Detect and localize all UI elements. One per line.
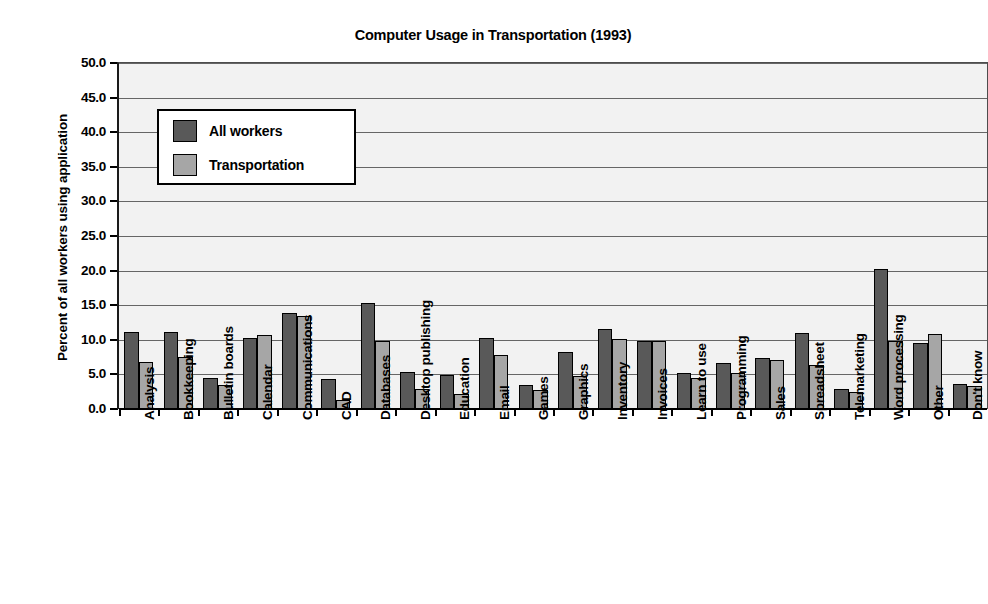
y-axis-tick-label: 35.0 <box>48 158 106 173</box>
bar-all-workers <box>400 372 415 409</box>
bar-all-workers <box>203 378 218 409</box>
bar-all-workers <box>124 332 139 409</box>
y-axis-tick-label: 45.0 <box>48 89 106 104</box>
legend-swatch-all-workers <box>173 120 197 142</box>
bar-all-workers <box>795 333 810 409</box>
bar-all-workers <box>519 385 534 409</box>
bar-group <box>592 63 631 409</box>
bar-group <box>750 63 789 409</box>
x-axis-category-label: Email <box>497 385 512 420</box>
x-axis-category-label: Desktop publishing <box>418 300 433 420</box>
x-axis-category-label: Calendar <box>260 365 275 420</box>
legend-swatch-transportation <box>173 154 197 176</box>
chart-title: Computer Usage in Transportation (1993) <box>0 27 986 43</box>
x-axis-category-label: Education <box>457 357 472 420</box>
bar-group <box>119 63 158 409</box>
y-axis-tick-label: 40.0 <box>48 124 106 139</box>
x-axis-category-label: Invoices <box>655 368 670 420</box>
x-axis-category-label: Telemarketing <box>852 333 867 420</box>
bar-all-workers <box>282 313 297 409</box>
x-axis-category-label: Communications <box>300 315 315 420</box>
bar-all-workers <box>164 332 179 409</box>
x-axis-category-label: Graphics <box>576 364 591 420</box>
legend-item-all-workers: All workers <box>173 119 282 143</box>
bar-all-workers <box>716 363 731 409</box>
y-axis-tick-label: 10.0 <box>48 331 106 346</box>
x-axis-category-label: Other <box>931 385 946 420</box>
x-axis-category-label: Databases <box>378 355 393 420</box>
chart-legend: All workers Transportation <box>157 109 356 185</box>
bar-all-workers <box>361 303 376 409</box>
bar-group <box>908 63 947 409</box>
bar-all-workers <box>558 352 573 409</box>
bar-all-workers <box>598 329 613 409</box>
legend-label-transportation: Transportation <box>209 157 304 173</box>
bar-all-workers <box>755 358 770 409</box>
y-axis-ticks: 50.045.040.035.030.025.020.015.010.05.00… <box>0 0 106 604</box>
y-axis-tick-label: 50.0 <box>48 55 106 70</box>
x-axis-category-label: Programming <box>734 336 749 420</box>
bar-all-workers <box>440 375 455 409</box>
bar-all-workers <box>677 373 692 409</box>
bar-all-workers <box>479 338 494 409</box>
x-axis-category-label: Sales <box>773 386 788 420</box>
y-axis-tick-label: 20.0 <box>48 262 106 277</box>
legend-item-transportation: Transportation <box>173 153 304 177</box>
x-axis-category-label: Inventory <box>615 362 630 420</box>
bar-all-workers <box>637 341 652 409</box>
x-axis-category-label: Word processing <box>891 314 906 420</box>
y-axis-tick-label: 15.0 <box>48 297 106 312</box>
y-axis-tick-label: 0.0 <box>48 401 106 416</box>
x-axis-category-labels: AnalysisBookkeepingBulletin boardsCalend… <box>117 408 985 604</box>
bar-all-workers <box>874 269 889 409</box>
bar-all-workers <box>913 343 928 409</box>
x-axis-category-label: Games <box>536 376 551 420</box>
x-axis-category-label: Bulletin boards <box>221 326 236 420</box>
bar-group <box>632 63 671 409</box>
bar-all-workers <box>321 379 336 409</box>
x-axis-category-label: Learn to use <box>694 343 709 420</box>
x-axis-category-label: Don't know <box>970 351 985 420</box>
bar-all-workers <box>834 389 849 409</box>
y-axis-tick-label: 30.0 <box>48 193 106 208</box>
x-axis-category-label: Bookkeeping <box>181 339 196 420</box>
bar-all-workers <box>243 338 258 409</box>
x-axis-category-label: Analysis <box>142 367 157 420</box>
bar-all-workers <box>953 384 968 409</box>
y-axis-tick-label: 25.0 <box>48 228 106 243</box>
bar-group <box>553 63 592 409</box>
x-axis-category-label: CAD <box>339 392 354 420</box>
legend-label-all-workers: All workers <box>209 123 282 139</box>
bar-group <box>514 63 553 409</box>
x-axis-category-label: Spreadsheet <box>812 342 827 420</box>
bar-group <box>474 63 513 409</box>
y-axis-tick-label: 5.0 <box>48 366 106 381</box>
